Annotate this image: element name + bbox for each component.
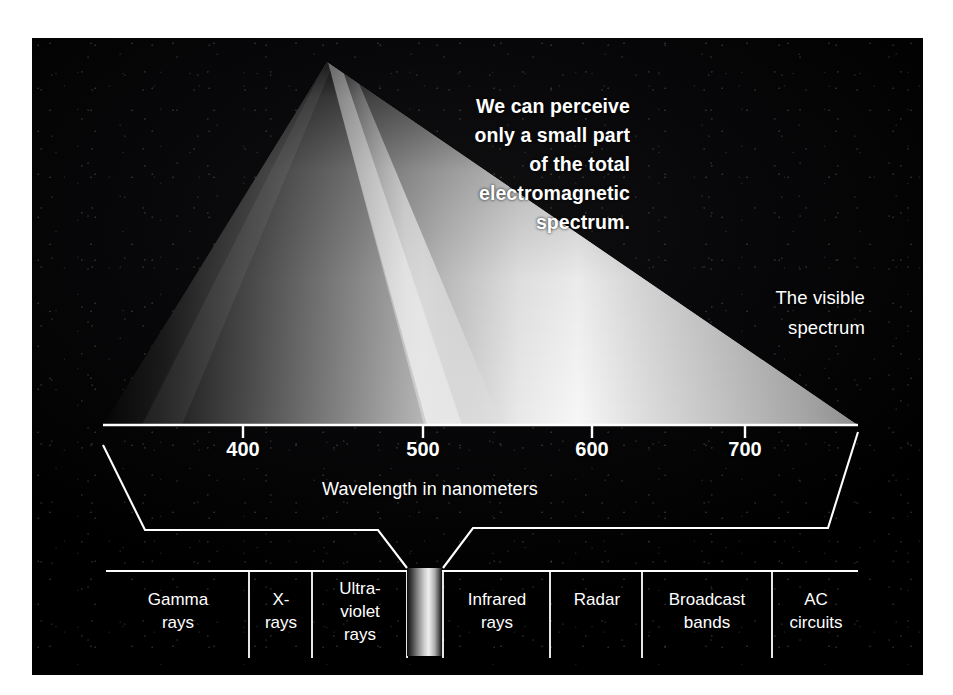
figure-root: We can perceive only a small part of the… xyxy=(0,0,953,695)
leader-line-right xyxy=(443,432,858,568)
leader-line-left xyxy=(103,445,407,568)
visible-spectrum-callout: The visible spectrum xyxy=(600,283,865,343)
band-label-broadcast-bands: Broadcast bands xyxy=(669,588,746,634)
band-label-radar: Radar xyxy=(574,588,620,611)
band-label-x-rays: X- rays xyxy=(265,588,297,634)
band-label-infrared-rays: Infrared rays xyxy=(468,588,527,634)
band-label-ultraviolet-rays: Ultra- violet rays xyxy=(339,577,381,646)
headline-callout: We can perceive only a small part of the… xyxy=(300,92,630,237)
tick-label-500: 500 xyxy=(406,438,439,461)
band-label-ac-circuits: AC circuits xyxy=(790,588,843,634)
tick-label-400: 400 xyxy=(226,438,259,461)
axis-caption: Wavelength in nanometers xyxy=(210,479,650,500)
tick-label-600: 600 xyxy=(575,438,608,461)
visible-light-swatch xyxy=(407,568,442,656)
tick-label-700: 700 xyxy=(728,438,761,461)
band-label-gamma-rays: Gamma rays xyxy=(148,588,208,634)
